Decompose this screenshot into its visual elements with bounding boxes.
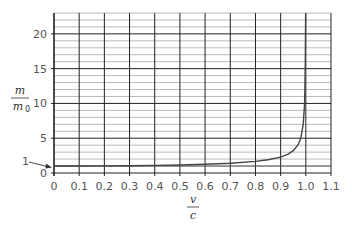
x-tick-label: 1.0 <box>297 180 315 193</box>
y-tick-label: 0 <box>40 167 47 180</box>
y-tick-label: 20 <box>33 28 47 41</box>
x-tick-label: 0.3 <box>121 180 139 193</box>
y-label-subscript: 0 <box>25 105 30 114</box>
x-axis-label: v c <box>187 193 199 222</box>
x-tick-label: 1.1 <box>322 180 340 193</box>
x-tick-label: 0 <box>51 180 58 193</box>
x-tick-label: 0.5 <box>171 180 189 193</box>
y-tick-label: 15 <box>33 63 47 76</box>
x-tick-label: 0.2 <box>96 180 114 193</box>
chart: 00.10.20.30.40.50.60.70.80.91.01.1 05101… <box>0 0 352 228</box>
y-tick-labels: 05101520 <box>33 28 47 180</box>
annotation-label: 1 <box>22 155 29 168</box>
x-tick-labels: 00.10.20.30.40.50.60.70.80.91.01.1 <box>51 180 340 193</box>
x-label-numerator: v <box>190 193 197 206</box>
x-tick-label: 0.6 <box>196 180 214 193</box>
x-tick-label: 0.8 <box>247 180 265 193</box>
y-tick-label: 10 <box>33 97 47 110</box>
y-label-numerator: m <box>15 84 25 97</box>
y-label-denominator: m <box>13 100 23 113</box>
x-tick-label: 0.4 <box>146 180 164 193</box>
x-tick-label: 0.7 <box>222 180 240 193</box>
y-axis-label: m m 0 <box>11 84 30 114</box>
minor-grid <box>54 13 331 166</box>
x-tick-label: 0.9 <box>272 180 290 193</box>
axes <box>51 13 331 176</box>
annotation-one: 1 <box>22 155 52 169</box>
x-tick-label: 0.1 <box>70 180 88 193</box>
x-label-denominator: c <box>190 209 196 222</box>
major-grid <box>51 13 331 176</box>
arrowhead-icon <box>46 164 53 169</box>
y-tick-label: 5 <box>40 132 47 145</box>
